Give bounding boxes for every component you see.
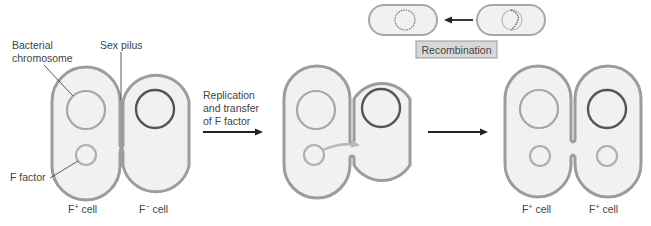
recipient-capsule-after — [369, 5, 437, 35]
sex-pilus-label: Sex pilus — [100, 39, 143, 51]
f-factor-label: F factor — [10, 171, 46, 183]
step1-label-line3: of F factor — [203, 115, 251, 127]
recombination-inset: Recombination — [369, 5, 545, 58]
stage3-right-cell-label: F+ cell — [589, 203, 618, 215]
recombination-label: Recombination — [421, 44, 491, 56]
bacterial-chromosome-label-line2: chromosome — [12, 52, 73, 64]
step1-label-line2: and transfer — [203, 102, 260, 114]
step1-label-line1: Replication — [203, 89, 255, 101]
stage1-right-cell-label: F− cell — [139, 203, 168, 215]
bacterial-chromosome-label-line1: Bacterial — [12, 39, 53, 51]
stage3-left-cell-label: F+ cell — [522, 203, 551, 215]
cell-pair-outline — [505, 66, 641, 197]
cell-pair-outline — [284, 66, 410, 198]
stage-2-cells — [284, 66, 410, 198]
f-factor-conjugation-diagram: Recombination Bacterial chromosome Sex p… — [0, 0, 651, 226]
stage1-left-cell-label: F+ cell — [68, 203, 97, 215]
stage-1-cells: Bacterial chromosome Sex pilus F factor … — [10, 39, 189, 215]
step-1-transition: Replication and transfer of F factor — [203, 89, 261, 132]
stage-3-cells: F+ cell F+ cell — [505, 66, 641, 215]
